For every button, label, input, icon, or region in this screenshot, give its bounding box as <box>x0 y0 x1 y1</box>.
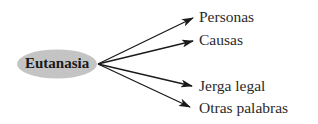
branch-label-causas: Causas <box>199 32 243 48</box>
arrow-causas <box>98 41 193 64</box>
arrow-personas <box>98 18 193 64</box>
arrow-jerga-legal <box>98 64 192 86</box>
branch-label-jerga-legal: Jerga legal <box>199 78 265 94</box>
concept-diagram: Eutanasia Personas Causas Jerga legal Ot… <box>0 0 318 124</box>
arrow-otras-palabras <box>98 64 190 107</box>
branch-label-personas: Personas <box>199 9 254 25</box>
branch-label-otras-palabras: Otras palabras <box>199 100 288 116</box>
center-node-label: Eutanasia <box>25 56 89 71</box>
